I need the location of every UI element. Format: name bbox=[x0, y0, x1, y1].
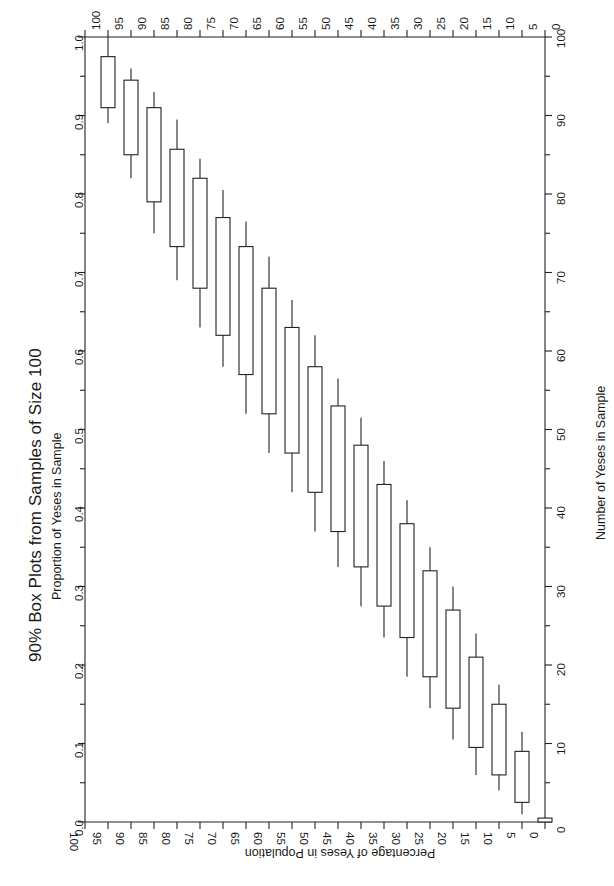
top-tick-label: 75 bbox=[205, 17, 217, 30]
box-body bbox=[193, 178, 207, 288]
right-tick-label: 10 bbox=[555, 742, 567, 755]
box-plot bbox=[308, 335, 322, 531]
top-tick-label: 30 bbox=[412, 17, 424, 30]
box-body bbox=[124, 80, 138, 155]
box-body bbox=[239, 247, 253, 375]
box-plot bbox=[538, 818, 552, 822]
top-tick-label: 50 bbox=[320, 17, 332, 30]
left-tick-label: 0.9 bbox=[73, 114, 85, 130]
left-tick-label: 0.8 bbox=[73, 192, 85, 208]
right-tick-label: 90 bbox=[555, 114, 567, 127]
top-tick-label: 85 bbox=[159, 17, 171, 30]
top-tick-label: 100 bbox=[90, 11, 102, 30]
bottom-tick-label: 5 bbox=[505, 832, 517, 838]
top-tick-label: 70 bbox=[228, 17, 240, 30]
plot-area bbox=[0, 0, 614, 886]
left-tick-label: 0.5 bbox=[73, 428, 85, 444]
bottom-tick-label: 70 bbox=[206, 832, 218, 845]
box-body bbox=[446, 610, 460, 708]
right-tick-label: 60 bbox=[555, 349, 567, 362]
box-body bbox=[423, 571, 437, 677]
box-body bbox=[377, 484, 391, 606]
right-tick-label: 80 bbox=[555, 192, 567, 205]
box-plot bbox=[492, 685, 506, 791]
box-plot bbox=[400, 500, 414, 677]
box-plot bbox=[239, 221, 253, 413]
box-plot bbox=[354, 418, 368, 606]
bottom-tick-label: 30 bbox=[390, 832, 402, 845]
box-plot bbox=[170, 119, 184, 280]
top-tick-label: 25 bbox=[435, 17, 447, 30]
bottom-tick-label: 35 bbox=[367, 832, 379, 845]
top-tick-label: 55 bbox=[297, 17, 309, 30]
boxes-layer bbox=[101, 37, 552, 822]
bottom-tick-label: 15 bbox=[459, 832, 471, 845]
box-body bbox=[308, 367, 322, 493]
box-body bbox=[147, 108, 161, 202]
right-tick-label: 70 bbox=[555, 271, 567, 284]
right-tick-label: 0 bbox=[555, 827, 567, 833]
bottom-tick-label: 50 bbox=[298, 832, 310, 845]
box-plot bbox=[515, 732, 529, 814]
bottom-tick-label: 0 bbox=[528, 832, 540, 838]
left-tick-label: 1.0 bbox=[73, 35, 85, 51]
top-tick-label: 35 bbox=[389, 17, 401, 30]
bottom-tick-label: 60 bbox=[252, 832, 264, 845]
box-plot bbox=[285, 300, 299, 492]
bottom-tick-label: 65 bbox=[229, 832, 241, 845]
bottom-tick-label: 95 bbox=[91, 832, 103, 845]
left-tick-label: 0.4 bbox=[73, 506, 85, 522]
box-plot bbox=[101, 37, 115, 123]
left-tick-label: 0.2 bbox=[73, 663, 85, 679]
bottom-tick-label: 85 bbox=[137, 832, 149, 845]
top-tick-label: 15 bbox=[481, 17, 493, 30]
box-plot bbox=[423, 547, 437, 708]
box-body bbox=[331, 406, 345, 532]
top-tick-label: 10 bbox=[504, 17, 516, 30]
bottom-tick-label: 25 bbox=[413, 832, 425, 845]
bottom-tick-label: 40 bbox=[344, 832, 356, 845]
left-tick-label: 0.0 bbox=[73, 820, 85, 836]
box-plot bbox=[331, 378, 345, 566]
box-plot bbox=[262, 257, 276, 453]
bottom-tick-label: 55 bbox=[275, 832, 287, 845]
left-tick-label: 0.6 bbox=[73, 349, 85, 365]
top-tick-label: 20 bbox=[458, 17, 470, 30]
chart-canvas: 90% Box Plots from Samples of Size 100 P… bbox=[0, 0, 614, 886]
top-tick-label: 60 bbox=[274, 17, 286, 30]
box-body bbox=[285, 327, 299, 453]
box-plot bbox=[377, 461, 391, 638]
box-plot bbox=[193, 159, 207, 328]
top-tick-label: 5 bbox=[527, 24, 539, 30]
box-plot bbox=[216, 190, 230, 367]
left-tick-label: 0.7 bbox=[73, 271, 85, 287]
bottom-tick-label: 45 bbox=[321, 832, 333, 845]
box-body bbox=[262, 288, 276, 414]
top-tick-label: 45 bbox=[343, 17, 355, 30]
bottom-tick-label: 80 bbox=[160, 832, 172, 845]
box-plot bbox=[124, 68, 138, 178]
box-plot bbox=[446, 587, 460, 740]
right-tick-label: 100 bbox=[555, 29, 567, 48]
right-tick-label: 40 bbox=[555, 506, 567, 519]
top-tick-label: 40 bbox=[366, 17, 378, 30]
right-tick-label: 30 bbox=[555, 585, 567, 598]
bottom-tick-label: 75 bbox=[183, 832, 195, 845]
right-tick-label: 20 bbox=[555, 663, 567, 676]
box-body bbox=[492, 704, 506, 775]
top-tick-label: 90 bbox=[136, 17, 148, 30]
box-body bbox=[101, 57, 115, 108]
box-body bbox=[216, 218, 230, 336]
left-tick-label: 0.1 bbox=[73, 742, 85, 758]
box-body bbox=[400, 524, 414, 638]
left-tick-label: 0.3 bbox=[73, 585, 85, 601]
bottom-tick-label: 20 bbox=[436, 832, 448, 845]
box-body bbox=[515, 751, 529, 802]
box-body bbox=[469, 657, 483, 747]
box-body bbox=[538, 818, 552, 822]
box-plot bbox=[469, 634, 483, 775]
right-tick-label: 50 bbox=[555, 428, 567, 441]
bottom-tick-label: 90 bbox=[114, 832, 126, 845]
top-tick-label: 95 bbox=[113, 17, 125, 30]
top-tick-label: 80 bbox=[182, 17, 194, 30]
